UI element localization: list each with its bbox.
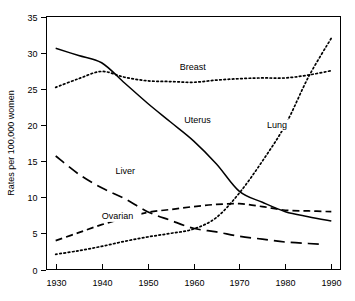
y-tick-label: 15 — [27, 157, 37, 167]
x-tick-label: 1960 — [184, 278, 204, 288]
x-tick-label: 1940 — [92, 278, 112, 288]
series-label-ovarian: Ovarian — [102, 211, 134, 221]
series-label-uterus: Uterus — [184, 115, 211, 125]
y-tick-label: 0 — [32, 266, 37, 276]
x-tick-label: 1990 — [321, 278, 341, 288]
series-label-breast: Breast — [180, 62, 207, 72]
x-tick-label: 1930 — [46, 278, 66, 288]
y-axis-label: Rates per 100,000 women — [6, 90, 16, 196]
y-tick-label: 10 — [27, 193, 37, 203]
series-label-liver: Liver — [115, 166, 135, 176]
series-line-uterus — [56, 48, 332, 221]
x-tick-label: 1950 — [138, 278, 158, 288]
y-tick-label: 20 — [27, 121, 37, 131]
x-tick-label: 1970 — [229, 278, 249, 288]
y-tick-label: 25 — [27, 85, 37, 95]
plot-frame — [47, 17, 341, 270]
line-chart: 0510152025303519301940195019601970198019… — [0, 0, 355, 301]
y-tick-label: 35 — [27, 13, 37, 23]
chart-canvas: 0510152025303519301940195019601970198019… — [0, 0, 355, 301]
series-label-lung: Lung — [267, 120, 287, 130]
series-line-ovarian — [56, 204, 332, 241]
y-tick-label: 5 — [32, 229, 37, 239]
x-tick-label: 1980 — [275, 278, 295, 288]
y-tick-label: 30 — [27, 49, 37, 59]
series-line-breast — [56, 71, 332, 88]
